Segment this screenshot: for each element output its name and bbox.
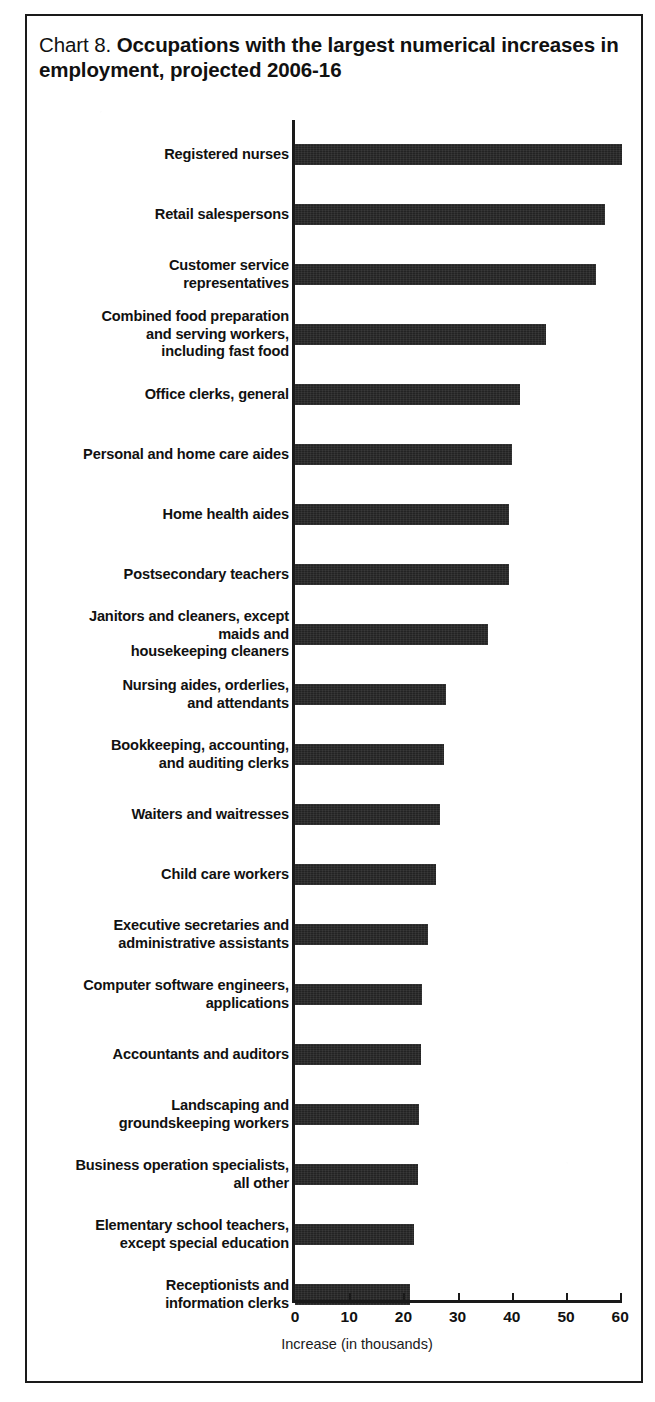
chart-page: Chart 8. Occupations with the largest nu… [0,0,655,1402]
bar [295,744,444,765]
x-tick-label: 50 [544,1308,588,1326]
x-tick-label: 40 [490,1308,534,1326]
bar-row: Waiters and waitresses [27,791,645,851]
bar-row: Retail salespersons [27,191,645,251]
bar [295,684,446,705]
bar [295,264,596,285]
bar [295,324,546,345]
x-tick-label: 10 [327,1308,371,1326]
bar-row: Accountants and auditors [27,1031,645,1091]
x-tick [349,1293,351,1301]
bar [295,984,422,1005]
bar-category-label: Customer servicerepresentatives [37,257,289,292]
bar-row: Executive secretaries andadministrative … [27,911,645,971]
bar-category-label: Personal and home care aides [37,446,289,464]
bar [295,624,488,645]
bar [295,384,520,405]
bar-category-label: Bookkeeping, accounting,and auditing cle… [37,737,289,772]
plot-area: Registered nursesRetail salespersonsCust… [27,16,645,1385]
bar-category-label: Janitors and cleaners, exceptmaids andho… [37,608,289,661]
bar [295,1164,418,1185]
y-axis-line [292,120,295,1302]
bar [295,1224,414,1245]
bar-row: Customer servicerepresentatives [27,251,645,311]
bar-row: Landscaping andgroundskeeping workers [27,1091,645,1151]
bar [295,444,512,465]
chart-frame: Chart 8. Occupations with the largest nu… [25,14,643,1383]
bar-row: Nursing aides, orderlies,and attendants [27,671,645,731]
bar-category-label: Landscaping andgroundskeeping workers [37,1097,289,1132]
bar-category-label: Computer software engineers,applications [37,977,289,1012]
bar-category-label: Elementary school teachers,except specia… [37,1217,289,1252]
bar [295,1104,419,1125]
bar-category-label: Business operation specialists,all other [37,1157,289,1192]
bar [295,504,509,525]
x-tick [403,1293,405,1301]
x-tick-label: 0 [273,1308,317,1326]
bar-row: Office clerks, general [27,371,645,431]
bar-category-label: Nursing aides, orderlies,and attendants [37,677,289,712]
bar-category-label: Child care workers [37,866,289,884]
bar-row: Combined food preparationand serving wor… [27,311,645,371]
x-axis-title: Increase (in thousands) [187,1336,527,1352]
bar [295,924,428,945]
bar-row: Janitors and cleaners, exceptmaids andho… [27,611,645,671]
bar [295,864,436,885]
bar-row: Bookkeeping, accounting,and auditing cle… [27,731,645,791]
bar [295,144,622,165]
bar-row: Personal and home care aides [27,431,645,491]
bar-category-label: Accountants and auditors [37,1046,289,1064]
bar-row: Registered nurses [27,131,645,191]
bar [295,564,509,585]
bar-category-label: Executive secretaries andadministrative … [37,917,289,952]
bar-row: Business operation specialists,all other [27,1151,645,1211]
bar-row: Child care workers [27,851,645,911]
x-tick-label: 30 [436,1308,480,1326]
bar-category-label: Postsecondary teachers [37,566,289,584]
bar-row: Computer software engineers,applications [27,971,645,1031]
x-tick [620,1293,622,1301]
bar-category-label: Combined food preparationand serving wor… [37,308,289,361]
bar-category-label: Retail salespersons [37,206,289,224]
bar-row: Elementary school teachers,except specia… [27,1211,645,1271]
x-tick [512,1293,514,1301]
bar-row: Postsecondary teachers [27,551,645,611]
bar [295,804,440,825]
bar-row: Home health aides [27,491,645,551]
bar-category-label: Receptionists andinformation clerks [37,1277,289,1312]
bar-category-label: Waiters and waitresses [37,806,289,824]
x-tick [566,1293,568,1301]
bar-category-label: Home health aides [37,506,289,524]
bar-category-label: Registered nurses [37,146,289,164]
x-tick-label: 20 [381,1308,425,1326]
bar [295,204,605,225]
bar-category-label: Office clerks, general [37,386,289,404]
x-tick [458,1293,460,1301]
x-tick-label: 60 [598,1308,642,1326]
bar [295,1044,421,1065]
